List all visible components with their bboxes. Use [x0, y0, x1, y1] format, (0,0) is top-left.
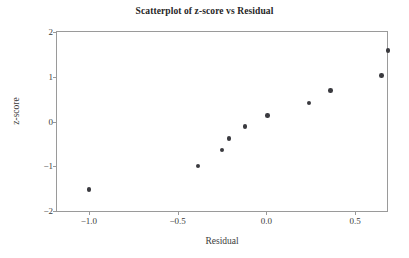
- plot-area: 210−1−2 −1.0−0.50.00.5: [56, 31, 388, 212]
- y-axis-label: z-score: [11, 81, 21, 141]
- y-tick-label: −2: [43, 206, 53, 216]
- x-tick-label: 0.5: [349, 216, 360, 226]
- data-point: [220, 148, 225, 153]
- data-point: [87, 187, 92, 192]
- y-tick-mark: [53, 211, 57, 212]
- data-point: [227, 136, 232, 141]
- page-title: Scatterplot of z-score vs Residual: [0, 6, 409, 16]
- x-tick-label: 0.0: [261, 216, 272, 226]
- x-axis-label: Residual: [56, 236, 388, 246]
- data-point: [196, 164, 201, 169]
- data-point: [328, 88, 333, 93]
- scatterplot-figure: Scatterplot of z-score vs Residual 210−1…: [0, 0, 409, 258]
- y-tick-label: 0: [49, 117, 54, 127]
- data-point: [265, 113, 270, 118]
- data-point: [307, 101, 312, 106]
- scatter-points-layer: [57, 32, 387, 211]
- x-tick-label: −0.5: [169, 216, 185, 226]
- x-tick-label: −1.0: [81, 216, 97, 226]
- y-tick-label: 1: [49, 72, 54, 82]
- x-tick-mark: [178, 211, 179, 215]
- x-tick-mark: [355, 211, 356, 215]
- y-tick-label: 2: [49, 27, 54, 37]
- data-point: [379, 73, 384, 78]
- y-tick-label: −1: [43, 161, 53, 171]
- x-tick-mark: [89, 211, 90, 215]
- data-point: [386, 48, 391, 53]
- x-tick-mark: [266, 211, 267, 215]
- data-point: [243, 124, 248, 129]
